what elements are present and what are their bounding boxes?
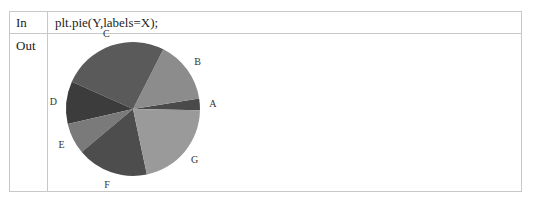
pie-label-e: E [58,139,64,150]
pie-label-b: B [194,56,201,67]
pie-chart: ABCDEFG [0,0,533,206]
pie-label-f: F [104,179,110,190]
pie-label-a: A [209,98,217,109]
pie-label-g: G [191,154,198,165]
pie-label-c: C [103,28,110,39]
pie-label-d: D [50,96,57,107]
